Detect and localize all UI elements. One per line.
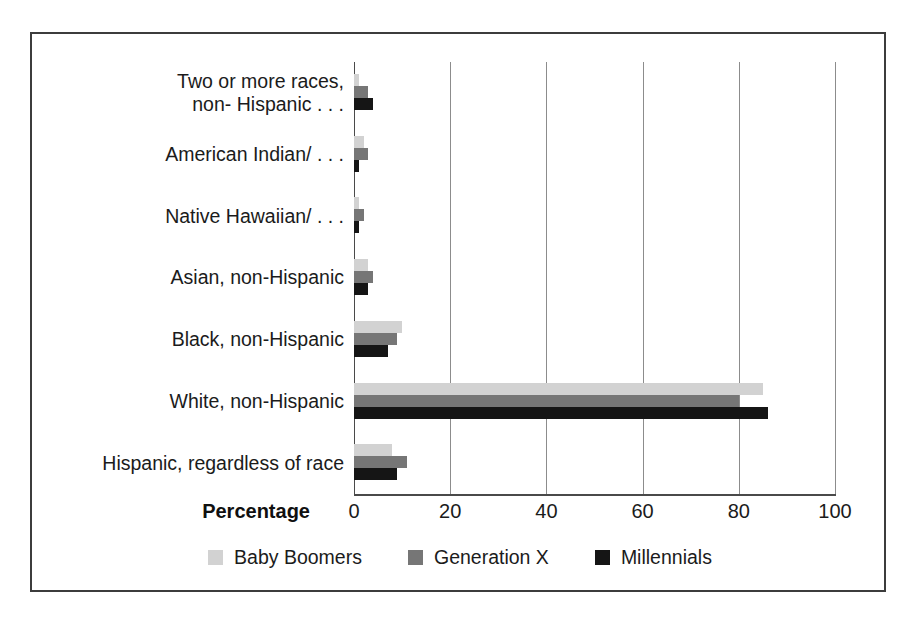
bar-group: [354, 185, 835, 247]
bar-0: [354, 136, 364, 148]
bar-1: [354, 209, 364, 221]
bar-0: [354, 197, 359, 209]
legend-item-2[interactable]: Millennials: [595, 546, 712, 569]
bar-0: [354, 259, 368, 271]
legend-item-0[interactable]: Baby Boomers: [208, 546, 362, 569]
bar-0: [354, 74, 359, 86]
bar-2: [354, 407, 768, 419]
bar-1: [354, 148, 368, 160]
bar-group: [354, 309, 835, 371]
chart-legend: Baby BoomersGeneration XMillennials: [32, 546, 888, 569]
legend-label: Baby Boomers: [234, 546, 362, 569]
bar-2: [354, 283, 368, 295]
category-axis-labels: Two or more races, non- Hispanic . . .Am…: [32, 62, 354, 494]
category-label-slot: Black, non-Hispanic: [32, 309, 354, 371]
x-axis-line: [354, 494, 836, 496]
bar-group: [354, 432, 835, 494]
legend-label: Generation X: [434, 546, 549, 569]
bar-0: [354, 444, 392, 456]
bar-1: [354, 395, 739, 407]
category-label-slot: American Indian/ . . .: [32, 124, 354, 186]
bar-1: [354, 86, 368, 98]
legend-swatch-icon: [595, 550, 610, 565]
x-tick-label-0: 0: [348, 500, 359, 523]
bar-0: [354, 383, 763, 395]
x-tick-label-80: 80: [728, 500, 750, 523]
bar-2: [354, 345, 388, 357]
category-label-slot: Asian, non-Hispanic: [32, 247, 354, 309]
bar-2: [354, 221, 359, 233]
x-axis-title: Percentage: [32, 500, 344, 523]
category-label-slot: Hispanic, regardless of race: [32, 432, 354, 494]
plot-area: [354, 62, 835, 494]
x-tick-label-60: 60: [631, 500, 653, 523]
bar-2: [354, 160, 359, 172]
category-label-slot: White, non-Hispanic: [32, 371, 354, 433]
category-label: Native Hawaiian/ . . .: [42, 205, 354, 228]
gridline-100: [835, 62, 836, 494]
category-label-slot: Two or more races, non- Hispanic . . .: [32, 62, 354, 124]
x-tick-label-20: 20: [439, 500, 461, 523]
category-label: Asian, non-Hispanic: [42, 266, 354, 289]
x-tick-label-100: 100: [818, 500, 851, 523]
legend-swatch-icon: [208, 550, 223, 565]
bar-group: [354, 247, 835, 309]
category-label: Hispanic, regardless of race: [42, 452, 354, 475]
category-label: Black, non-Hispanic: [42, 328, 354, 351]
bar-1: [354, 271, 373, 283]
bar-1: [354, 456, 407, 468]
x-axis-tick-labels: 020406080100: [354, 500, 835, 532]
bar-2: [354, 98, 373, 110]
category-label: Two or more races, non- Hispanic . . .: [42, 70, 354, 116]
legend-item-1[interactable]: Generation X: [408, 546, 549, 569]
x-tick-label-40: 40: [535, 500, 557, 523]
category-label: American Indian/ . . .: [42, 143, 354, 166]
bar-1: [354, 333, 397, 345]
bar-group: [354, 62, 835, 124]
legend-label: Millennials: [621, 546, 712, 569]
bar-group: [354, 371, 835, 433]
bar-group: [354, 124, 835, 186]
bar-0: [354, 321, 402, 333]
bar-2: [354, 468, 397, 480]
category-label-slot: Native Hawaiian/ . . .: [32, 185, 354, 247]
legend-swatch-icon: [408, 550, 423, 565]
category-label: White, non-Hispanic: [42, 390, 354, 413]
chart-container: Two or more races, non- Hispanic . . .Am…: [30, 32, 886, 592]
